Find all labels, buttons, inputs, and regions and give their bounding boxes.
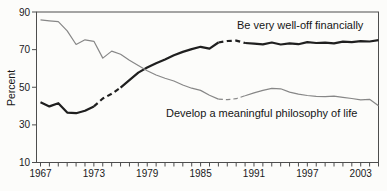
freshman-goals-line-chart: 10305070901967197319791985199119972003 P… xyxy=(0,0,387,191)
x-tick-label: 1973 xyxy=(83,168,106,179)
x-tick-label: 1985 xyxy=(189,168,212,179)
series-line-financial xyxy=(41,102,94,113)
series-line-financial xyxy=(121,43,219,88)
x-tick-label: 2003 xyxy=(350,168,373,179)
y-tick-label: 50 xyxy=(19,82,31,93)
y-tick-label: 70 xyxy=(19,44,31,55)
plot-frame xyxy=(37,12,379,163)
series-label-philosophy: Develop a meaningful philosophy of life xyxy=(166,107,357,119)
series-line-philosophy xyxy=(41,20,219,99)
series-line-financial xyxy=(245,40,378,44)
series-line-financial xyxy=(94,88,121,107)
x-tick-label: 1979 xyxy=(136,168,159,179)
x-tick-label: 1967 xyxy=(29,168,52,179)
series-line-philosophy xyxy=(245,88,378,105)
y-tick-label: 90 xyxy=(19,7,31,18)
y-tick-label: 10 xyxy=(19,157,31,168)
y-axis-title: Percent xyxy=(5,70,17,106)
series-label-financial: Be very well-off financially xyxy=(237,19,363,31)
y-tick-label: 30 xyxy=(19,119,31,130)
series-line-philosophy xyxy=(218,96,245,100)
x-tick-label: 1991 xyxy=(243,168,266,179)
series-line-financial xyxy=(218,41,245,43)
x-tick-label: 1997 xyxy=(296,168,319,179)
